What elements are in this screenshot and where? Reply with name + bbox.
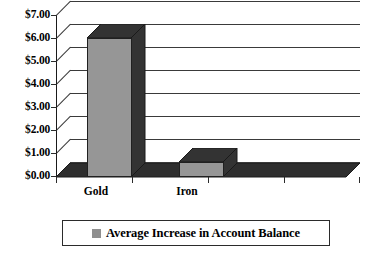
depth-connector-6: [56, 24, 71, 39]
depth-connector-1: [56, 139, 71, 154]
y-axis-label: $6.00: [0, 32, 50, 43]
depth-connector-2: [56, 116, 71, 131]
bar-iron-front-face: [179, 162, 224, 177]
bar-iron: [179, 148, 237, 177]
depth-connector-7: [56, 1, 71, 16]
y-axis-label: $0.00: [0, 170, 50, 181]
legend: Average Increase in Account Balance: [62, 220, 330, 246]
y-axis-label: $3.00: [0, 101, 50, 112]
x-tick-2: [208, 177, 209, 183]
bar-gold-side-face: [131, 24, 146, 177]
y-axis-label: $2.00: [0, 124, 50, 135]
y-tick-4: [51, 84, 57, 85]
y-axis-label: $7.00: [0, 9, 50, 20]
y-axis-label: $1.00: [0, 147, 50, 158]
x-tick-0: [56, 177, 57, 183]
x-axis-label-iron: Iron: [155, 185, 219, 197]
y-tick-5: [51, 61, 57, 62]
y-tick-2: [51, 130, 57, 131]
legend-swatch-icon: [92, 229, 101, 238]
y-tick-3: [51, 107, 57, 108]
bar-iron-side-face: [223, 148, 238, 177]
y-axis-label: $5.00: [0, 55, 50, 66]
bar-chart: $7.00 $6.00 $5.00 $4.00 $3.00 $2.00 $1.0…: [0, 0, 370, 260]
depth-connector-5: [56, 47, 71, 62]
bar-gold-front-face: [87, 38, 132, 177]
depth-connector-3: [56, 93, 71, 108]
x-tick-4: [359, 177, 360, 183]
depth-connector-4: [56, 70, 71, 85]
plot-area: $7.00 $6.00 $5.00 $4.00 $3.00 $2.00 $1.0…: [0, 0, 370, 200]
legend-entry-label: Average Increase in Account Balance: [106, 226, 300, 241]
bar-gold: [87, 24, 145, 177]
gridline-top-wall: [70, 1, 360, 2]
x-tick-3: [284, 177, 285, 183]
y-axis-label: $4.00: [0, 78, 50, 89]
y-tick-7: [51, 15, 57, 16]
x-tick-1: [132, 177, 133, 183]
y-tick-6: [51, 38, 57, 39]
y-tick-1: [51, 153, 57, 154]
x-axis-label-gold: Gold: [64, 185, 128, 197]
